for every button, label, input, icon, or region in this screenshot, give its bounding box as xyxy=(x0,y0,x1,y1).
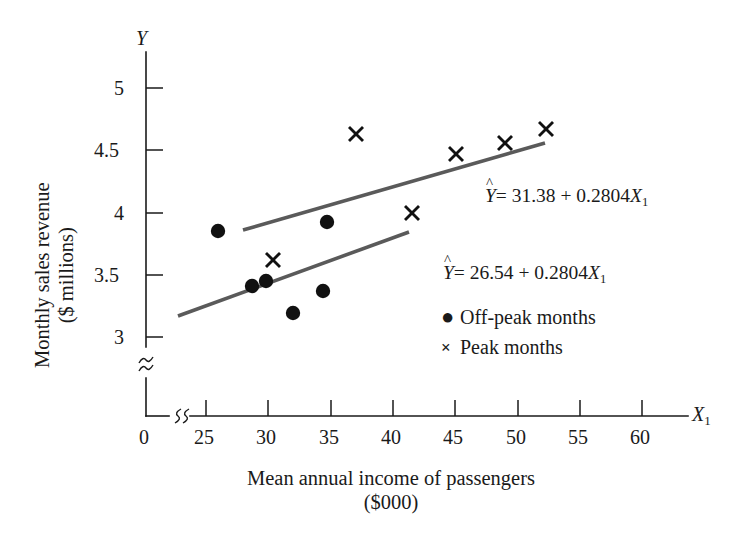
data-point-peak xyxy=(349,127,363,141)
y-axis-name: Y xyxy=(136,28,147,48)
y-tick-label-4: 4 xyxy=(114,203,124,223)
y-axis-title: Monthly sales revenue ($ millions) xyxy=(30,182,78,368)
y-hat-symbol: ^Y xyxy=(485,185,496,206)
data-point-off-peak xyxy=(320,215,334,229)
y-tick-label-text: 3 xyxy=(114,326,124,348)
x-tick-label-text: 35 xyxy=(319,426,339,448)
data-point-off-peak xyxy=(286,306,300,320)
y-axis-title-line2: ($ millions) xyxy=(55,227,77,323)
legend-label-peak: Peak months xyxy=(460,337,563,357)
equation-body: = 31.38 + 0.2804 xyxy=(496,185,630,206)
x-tick-label-45: 45 xyxy=(443,427,463,447)
x-tick-label-55: 55 xyxy=(568,427,588,447)
y-hat-symbol: ^Y xyxy=(443,262,454,283)
legend-cross-icon: × xyxy=(441,339,460,356)
data-point-peak xyxy=(405,206,419,220)
data-point-peak xyxy=(498,136,512,150)
fit-line-off-peak-months xyxy=(178,232,409,316)
y-tick-label-text: 3.5 xyxy=(94,264,119,286)
y-tick-label-3.5: 3.5 xyxy=(94,265,119,285)
data-point-peak xyxy=(449,147,463,161)
equation-xsub: 1 xyxy=(600,272,606,286)
equation-xvar: X xyxy=(630,185,642,206)
data-point-off-peak xyxy=(316,284,330,298)
x-tick-label-text: 30 xyxy=(256,426,276,448)
equation-annotation-off-peak: ^Y= 26.54 + 0.2804X1 xyxy=(443,263,606,283)
equation-annotation-peak: ^Y= 31.38 + 0.2804X1 xyxy=(485,186,648,206)
legend-item-peak: × Peak months xyxy=(441,337,563,357)
legend-label-off-peak: Off-peak months xyxy=(460,307,596,327)
x-tick-label-text: 45 xyxy=(443,426,463,448)
x-tick-label-text: 40 xyxy=(381,426,401,448)
x-tick-label-35: 35 xyxy=(319,427,339,447)
data-point-peak xyxy=(539,122,553,136)
x-axis-name-label: X xyxy=(692,403,704,425)
y-axis-name-label: Y xyxy=(136,27,147,49)
x-axis-title: Mean annual income of passengers ($000) xyxy=(206,466,576,514)
y-tick-label-4.5: 4.5 xyxy=(94,140,119,160)
x-axis-name-subscript: 1 xyxy=(704,413,711,428)
x-tick-label-60: 60 xyxy=(630,427,650,447)
legend-filled-circle-icon: ● xyxy=(441,306,460,328)
x-tick-label-40: 40 xyxy=(381,427,401,447)
y-tick-label-5: 5 xyxy=(114,78,124,98)
x-axis-break-icon xyxy=(175,409,189,423)
scatter-plot-figure: Y X1 5 4.5 4 3.5 3 0 25 30 35 40 45 50 5… xyxy=(0,0,735,534)
y-tick-label-3: 3 xyxy=(114,327,124,347)
x-tick-label-50: 50 xyxy=(506,427,526,447)
data-point-off-peak xyxy=(245,279,259,293)
x-tick-label-text: 50 xyxy=(506,426,526,448)
equation-xsub: 1 xyxy=(642,195,648,209)
y-tick-label-text: 4.5 xyxy=(94,139,119,161)
x-tick-label-text: 25 xyxy=(194,426,214,448)
y-tick-label-text: 4 xyxy=(114,202,124,224)
data-point-off-peak xyxy=(259,274,273,288)
x-tick-label-30: 30 xyxy=(256,427,276,447)
y-axis-title-line1: Monthly sales revenue xyxy=(31,182,53,368)
x-axis-title-line2: ($000) xyxy=(364,491,419,513)
y-tick-label-text: 5 xyxy=(114,77,124,99)
legend-item-off-peak: ● Off-peak months xyxy=(441,306,596,328)
x-tick-label-text: 0 xyxy=(139,426,149,448)
equation-xvar: X xyxy=(588,262,600,283)
x-axis-name: X1 xyxy=(692,404,711,424)
data-point-peak xyxy=(266,253,280,267)
data-point-off-peak xyxy=(211,224,225,238)
x-tick-label-text: 60 xyxy=(630,426,650,448)
x-axis-title-line1: Mean annual income of passengers xyxy=(247,467,535,489)
equation-body: = 26.54 + 0.2804 xyxy=(454,262,588,283)
x-tick-label-text: 55 xyxy=(568,426,588,448)
x-tick-label-0: 0 xyxy=(139,427,149,447)
y-axis-break-icon xyxy=(139,357,153,371)
x-tick-label-25: 25 xyxy=(194,427,214,447)
